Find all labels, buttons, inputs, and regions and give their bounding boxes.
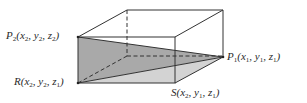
vertex-p1 [222,56,225,59]
label-s: S(x2, y1, z1) [171,87,219,100]
label-p1: P1(x1, y1, z1) [227,51,280,64]
vertex-r [77,82,80,85]
top-face [78,10,223,37]
label-r: R(x2, y2, z1) [14,76,64,89]
vertex-p2 [77,36,80,39]
label-p2: P2(x2, y2, z2) [6,30,59,43]
